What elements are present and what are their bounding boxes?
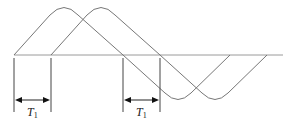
interval-2-label: T1 <box>136 106 147 120</box>
interval-1-arrowhead-right <box>43 97 50 103</box>
interval-2-label-main: T <box>136 105 143 119</box>
interval-1-label: T1 <box>27 106 38 120</box>
interval-2-arrowhead-right <box>152 97 159 103</box>
interval-1-label-main: T <box>27 105 34 119</box>
interval-1-arrowhead-left <box>15 97 22 103</box>
waveform-diagram <box>0 0 299 125</box>
waveform-2 <box>51 8 267 100</box>
interval-2-arrowhead-left <box>124 97 131 103</box>
interval-1-label-sub: 1 <box>34 111 38 120</box>
interval-2-label-sub: 1 <box>143 111 147 120</box>
